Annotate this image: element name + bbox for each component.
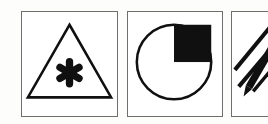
- warning-triangle-art: [22, 12, 117, 116]
- panel-pencil-strokes[interactable]: [231, 11, 268, 117]
- asterisk-icon: [55, 58, 84, 87]
- panel-pie-quarter[interactable]: [127, 11, 223, 117]
- pencil-strokes-art: [232, 12, 268, 116]
- panel-warning-triangle[interactable]: [21, 11, 118, 117]
- pie-quarter-art: [128, 12, 222, 116]
- icon-sheet: [0, 0, 268, 124]
